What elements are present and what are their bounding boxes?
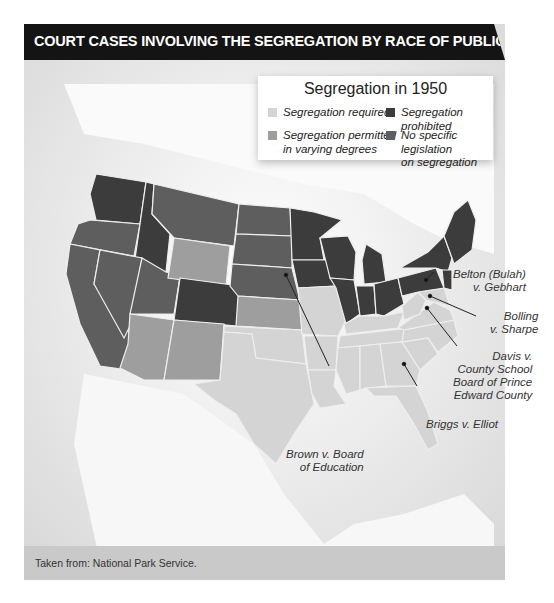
callout-line: Belton (Bulah) — [453, 268, 526, 281]
state-north-dakota — [236, 204, 292, 236]
callout-line: Bolling — [490, 310, 538, 323]
state-new-mexico — [164, 320, 224, 380]
source-footer: Taken from: National Park Service. — [24, 546, 505, 580]
legend-label: on segregation — [401, 156, 493, 170]
callout-belton: Belton (Bulah) v. Gebhart — [453, 268, 526, 294]
legend-label: in varying degrees — [283, 143, 396, 157]
state-wyoming — [168, 238, 230, 286]
callout-line: Briggs v. Elliot — [426, 418, 498, 431]
legend-item-required: Segregation required — [268, 106, 390, 120]
legend-item-permitted: Segregation permitted in varying degrees — [268, 129, 396, 156]
legend-label-group: Segregation permitted in varying degrees — [283, 129, 396, 156]
callout-briggs: Briggs v. Elliot — [426, 418, 498, 431]
swatch-no-legislation — [386, 131, 395, 140]
state-south-dakota — [232, 234, 292, 268]
legend: Segregation in 1950 Segregation required… — [258, 76, 493, 160]
state-indiana — [356, 286, 376, 316]
source-text: Taken from: National Park Service. — [35, 557, 197, 569]
callout-davis: Davis v. County School Board of Prince E… — [453, 350, 532, 402]
callout-line: of Education — [286, 461, 364, 474]
state-arkansas — [304, 336, 338, 370]
callout-line: v. Sharpe — [490, 323, 538, 336]
callout-line: Edward County — [453, 389, 532, 402]
legend-label: Segregation required — [283, 106, 390, 120]
callout-bolling: Bolling v. Sharpe — [490, 310, 538, 336]
callout-line: Board of Prince — [453, 376, 532, 389]
callout-line: v. Gebhart — [453, 281, 526, 294]
state-washington — [90, 174, 146, 224]
swatch-required — [268, 108, 277, 117]
callout-line: Davis v. — [453, 350, 532, 363]
callout-line: Brown v. Board — [286, 448, 364, 461]
swatch-prohibited — [386, 108, 395, 117]
state-new-jersey — [442, 270, 452, 290]
page-title: COURT CASES INVOLVING THE SEGREGATION BY… — [34, 33, 554, 49]
title-banner: COURT CASES INVOLVING THE SEGREGATION BY… — [24, 24, 505, 60]
legend-label: Segregation permitted — [283, 129, 396, 143]
state-kansas — [236, 296, 302, 330]
legend-title: Segregation in 1950 — [258, 80, 493, 98]
legend-label-group: No specific legislation on segregation — [401, 129, 493, 170]
callout-brown: Brown v. Board of Education — [286, 448, 364, 474]
legend-label: No specific legislation — [401, 129, 493, 156]
callout-line: County School — [453, 363, 532, 376]
legend-item-no-legislation: No specific legislation on segregation — [386, 129, 493, 170]
swatch-permitted — [268, 131, 277, 140]
